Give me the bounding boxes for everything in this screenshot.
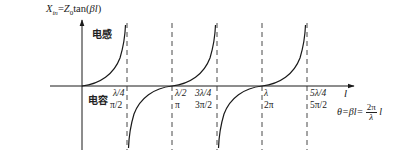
tick-length-3: 3λ/4 xyxy=(195,89,211,99)
y-axis-title: Xin=Z0tan(βl) xyxy=(46,4,101,17)
tick-angle-2: π xyxy=(175,101,180,111)
tick-angle-5: 5π/2 xyxy=(310,101,327,111)
capacitive-label: 电容 xyxy=(88,96,108,106)
tick-length-2: λ/2 xyxy=(175,89,187,99)
x-axis-label: l xyxy=(344,88,347,99)
tick-length-1: λ/4 xyxy=(113,89,125,99)
tick-angle-3: 3π/2 xyxy=(195,101,212,111)
theta-formula: θ=βl= 2πλ l xyxy=(337,103,382,122)
tan-reactance-diagram: Xin=Z0tan(βl) 电感 电容 λ/4 π/2 λ/2 π 3λ/4 3… xyxy=(0,0,403,163)
tick-angle-4: 2π xyxy=(264,101,274,111)
tick-angle-1: π/2 xyxy=(110,101,122,111)
inductive-label: 电感 xyxy=(92,30,112,40)
tick-length-5: 5λ/4 xyxy=(310,89,326,99)
tick-length-4: λ xyxy=(264,89,268,99)
fraction: 2πλ xyxy=(366,103,377,122)
plot-area xyxy=(0,0,403,163)
